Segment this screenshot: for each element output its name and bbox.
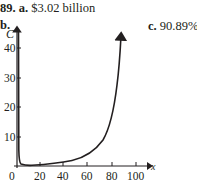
svg-text:40: 40 [57,170,69,182]
y-axis-label: C [6,27,15,41]
chart: 10 20 30 40 C 0 20 40 60 80 100 x [0,0,197,184]
svg-text:80: 80 [106,170,118,182]
svg-text:20: 20 [34,170,46,182]
svg-text:30: 30 [4,72,16,84]
svg-text:10: 10 [4,131,16,143]
cost-curve [19,32,122,165]
svg-text:100: 100 [127,170,145,182]
x-axis-label: x [150,161,156,172]
svg-text:40: 40 [4,42,16,54]
y-tick-labels: 10 20 30 40 [4,42,16,143]
x-tick-labels: 0 20 40 60 80 100 [9,170,145,182]
svg-text:20: 20 [4,101,16,113]
svg-text:60: 60 [81,170,93,182]
svg-text:0: 0 [9,170,15,182]
